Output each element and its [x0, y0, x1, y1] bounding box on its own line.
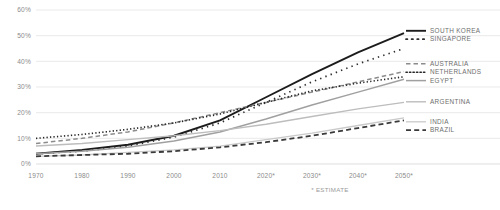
y-axis-ticks: 0%10%20%30%40%50%60% — [17, 6, 31, 167]
x-axis-tick-label: 2030* — [303, 172, 321, 179]
series-line-south-korea — [36, 33, 404, 154]
legend-label-singapore: SINGAPORE — [430, 35, 471, 42]
x-axis-ticks: 197019801990200020102020*2030*2040*2050* — [28, 172, 413, 179]
series-line-australia — [36, 72, 404, 144]
legend-label-brazil: BRAZIL — [430, 126, 455, 133]
y-axis-tick-label: 40% — [17, 58, 31, 65]
series-layer — [36, 33, 404, 156]
estimate-footnote: * ESTIMATE — [311, 186, 349, 193]
series-line-argentina — [36, 102, 404, 146]
legend-label-india: INDIA — [430, 118, 449, 125]
legend-label-argentina: ARGENTINA — [430, 98, 471, 105]
chart-canvas: 0%10%20%30%40%50%60% 1970198019902000201… — [0, 0, 500, 210]
legend-label-netherlands: NETHERLANDS — [430, 68, 481, 75]
footnote: * ESTIMATE — [311, 186, 349, 193]
y-axis-tick-label: 50% — [17, 32, 31, 39]
x-axis-tick-label: 2040* — [349, 172, 367, 179]
legend-label-egypt: EGYPT — [430, 77, 453, 84]
y-axis-tick-label: 10% — [17, 135, 31, 142]
series-line-singapore — [36, 49, 404, 154]
y-axis-tick-label: 0% — [21, 160, 31, 167]
x-axis-tick-label: 2010 — [212, 172, 228, 179]
line-chart: 0%10%20%30%40%50%60% 1970198019902000201… — [0, 0, 500, 210]
x-axis-tick-label: 1970 — [28, 172, 44, 179]
legend-label-south-korea: SOUTH KOREA — [430, 27, 481, 34]
y-axis-tick-label: 20% — [17, 109, 31, 116]
x-axis-tick-label: 2000 — [166, 172, 182, 179]
x-axis-tick-label: 1990 — [120, 172, 136, 179]
x-axis-tick-label: 1980 — [74, 172, 90, 179]
y-axis-tick-label: 60% — [17, 6, 31, 13]
x-axis-tick-label: 2020* — [257, 172, 275, 179]
y-axis-tick-label: 30% — [17, 83, 31, 90]
x-axis-tick-label: 2050* — [395, 172, 413, 179]
legend-label-australia: AUSTRALIA — [430, 60, 469, 67]
legend: SOUTH KOREASINGAPOREAUSTRALIANETHERLANDS… — [406, 27, 481, 133]
